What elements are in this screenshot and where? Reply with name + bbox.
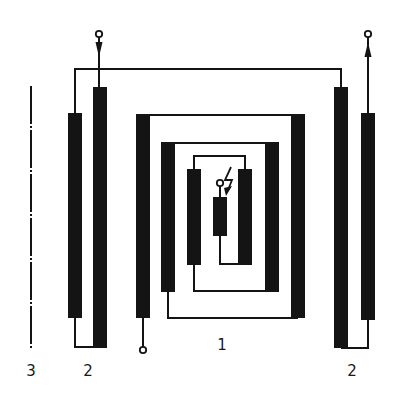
outer-winding-left <box>68 87 107 348</box>
terminal-top-left <box>96 31 103 87</box>
label-axis: 3 <box>26 362 36 380</box>
label-outer-right: 2 <box>347 362 357 380</box>
lightning-bolt-icon <box>224 167 232 196</box>
outer-winding-right <box>334 87 375 348</box>
winding-bar <box>334 87 348 348</box>
winding-bar <box>161 142 175 292</box>
winding-bar <box>361 113 375 320</box>
winding-bar <box>291 114 305 318</box>
terminal-top-right <box>365 31 372 113</box>
winding-bar <box>265 142 279 292</box>
terminal-bottom <box>140 347 146 353</box>
arrow-down-icon <box>96 42 103 57</box>
winding-bar <box>136 114 150 318</box>
label-outer-left: 2 <box>83 362 93 380</box>
resistor-element <box>213 197 227 236</box>
winding-bar <box>68 113 82 318</box>
winding-bar <box>93 87 107 348</box>
label-inner-winding: 1 <box>217 336 227 354</box>
winding-bar <box>238 169 252 265</box>
top-connecting-wire <box>75 69 341 113</box>
coil-diagram: 3 2 1 2 <box>0 0 404 394</box>
terminal-center <box>217 180 223 186</box>
winding-bar <box>187 169 201 265</box>
arrow-up-icon <box>365 42 372 57</box>
